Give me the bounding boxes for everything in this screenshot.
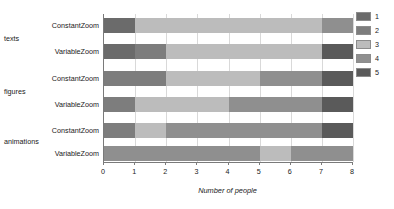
bar-segment — [322, 44, 353, 59]
legend-label: 3 — [375, 40, 379, 49]
x-tick — [196, 162, 197, 165]
legend-item[interactable]: 1 — [356, 10, 392, 23]
bar-segment — [135, 44, 166, 59]
bar-segment — [135, 18, 322, 33]
bar-segment — [229, 97, 322, 112]
bar-segment — [135, 123, 166, 138]
bar-row — [104, 146, 352, 161]
gridline — [322, 14, 323, 162]
bar-row — [104, 123, 352, 138]
stacked-bar-chart: ConstantZoomVariableZoomConstantZoomVari… — [0, 0, 394, 209]
gridline — [229, 14, 230, 162]
gridline — [260, 14, 261, 162]
bar-segment — [166, 71, 259, 86]
x-tick-label: 1 — [124, 167, 144, 176]
group-label: figures — [4, 86, 26, 98]
legend-swatch — [356, 12, 371, 21]
gridline — [353, 14, 354, 162]
category-axis-labels: ConstantZoomVariableZoomConstantZoomVari… — [0, 14, 103, 162]
bar-segment — [322, 97, 353, 112]
gridline — [135, 14, 136, 162]
bar-segment — [166, 123, 322, 138]
x-tick-label: 6 — [280, 167, 300, 176]
bar-row — [104, 71, 352, 86]
x-axis-title: Number of people — [103, 186, 352, 195]
category-label: VariableZoom — [55, 147, 99, 161]
bar-segment — [104, 71, 166, 86]
plot-area — [103, 14, 352, 162]
x-tick-label: 2 — [155, 167, 175, 176]
bar-segment — [166, 44, 322, 59]
x-tick — [134, 162, 135, 165]
bar-row — [104, 44, 352, 59]
legend-item[interactable]: 4 — [356, 52, 392, 65]
legend-swatch — [356, 54, 371, 63]
legend-item[interactable]: 3 — [356, 38, 392, 51]
x-tick-label: 3 — [186, 167, 206, 176]
legend-label: 5 — [375, 68, 379, 77]
group-label: animations — [4, 136, 39, 148]
gridline — [197, 14, 198, 162]
x-tick — [165, 162, 166, 165]
bar-segment — [104, 44, 135, 59]
x-tick — [103, 162, 104, 165]
x-tick-label: 5 — [249, 167, 269, 176]
bar-segment — [260, 146, 291, 161]
gridline — [291, 14, 292, 162]
x-tick — [259, 162, 260, 165]
bar-segment — [322, 18, 353, 33]
category-label: ConstantZoom — [52, 72, 99, 86]
category-label: VariableZoom — [55, 45, 99, 59]
legend-item[interactable]: 5 — [356, 66, 392, 79]
x-tick — [290, 162, 291, 165]
bar-row — [104, 18, 352, 33]
legend-item[interactable]: 2 — [356, 24, 392, 37]
bar-segment — [322, 123, 353, 138]
bar-segment — [104, 146, 260, 161]
legend-swatch — [356, 26, 371, 35]
bar-segment — [291, 146, 353, 161]
x-tick-label: 7 — [311, 167, 331, 176]
bar-segment — [135, 97, 228, 112]
x-tick — [228, 162, 229, 165]
legend-swatch — [356, 68, 371, 77]
gridline — [166, 14, 167, 162]
bar-segment — [104, 97, 135, 112]
legend-label: 1 — [375, 12, 379, 21]
x-tick-label: 4 — [218, 167, 238, 176]
chart-legend: 12345 — [356, 10, 392, 80]
legend-swatch — [356, 40, 371, 49]
x-tick — [321, 162, 322, 165]
x-tick-label: 0 — [93, 167, 113, 176]
legend-label: 4 — [375, 54, 379, 63]
bar-row — [104, 97, 352, 112]
x-tick-label: 8 — [342, 167, 362, 176]
x-tick — [352, 162, 353, 165]
bar-segment — [322, 71, 353, 86]
category-label: ConstantZoom — [52, 19, 99, 33]
category-label: VariableZoom — [55, 98, 99, 112]
legend-label: 2 — [375, 26, 379, 35]
bar-segment — [104, 18, 135, 33]
group-label: texts — [4, 33, 19, 45]
bar-segment — [260, 71, 322, 86]
category-label: ConstantZoom — [52, 124, 99, 138]
bar-segment — [104, 123, 135, 138]
